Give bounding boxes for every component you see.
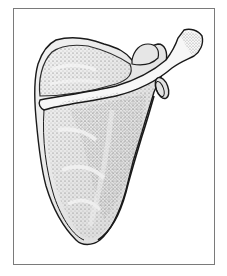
scapula-illustration [0,0,227,276]
